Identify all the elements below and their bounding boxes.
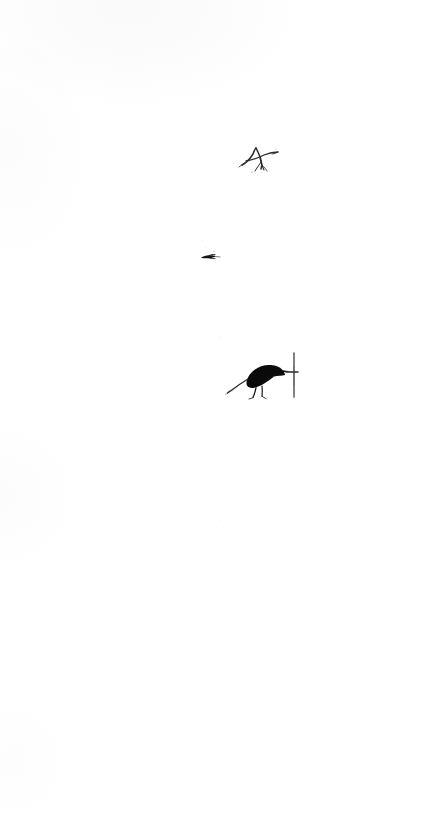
paper-speck: [219, 336, 220, 337]
distant-bird-subject: [198, 248, 222, 266]
vertical-post: [286, 352, 304, 398]
paper-speck: [219, 520, 220, 521]
paper-speck: [202, 240, 203, 241]
perched-bird-subject: [224, 354, 290, 402]
image-canvas: [0, 0, 430, 827]
paper-speck: [233, 163, 234, 164]
paper-speck: [302, 312, 303, 313]
paper-grain-texture: [0, 0, 430, 827]
flying-bird-subject: [236, 141, 284, 177]
